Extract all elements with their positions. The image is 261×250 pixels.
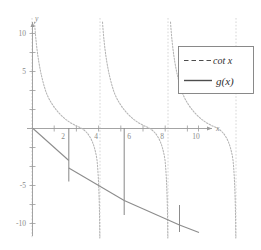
chart-figure: 2 4 6 8 10 10 5 -5 -10 x y cot x g(x)	[0, 0, 261, 250]
y-tick-labels: 10 5 -5 -10	[16, 29, 26, 228]
y-axis-label: y	[34, 14, 39, 23]
cot-branch-1	[35, 22, 100, 238]
x-tick-label-6: 6	[127, 132, 131, 141]
y-tick-label-5: 5	[22, 67, 26, 76]
g-of-x-curve	[33, 128, 199, 233]
x-tick-labels: 2 4 6 8 10	[61, 132, 200, 141]
x-tick-label-8: 8	[160, 132, 164, 141]
y-tick-label-neg10: -10	[16, 219, 26, 228]
y-axis-arrow	[31, 22, 35, 27]
g-segment-2	[69, 168, 124, 201]
legend: cot x g(x)	[179, 47, 254, 94]
chart-canvas: 2 4 6 8 10 10 5 -5 -10 x y cot x g(x)	[0, 0, 261, 250]
g-segment-4	[180, 225, 200, 233]
x-tick-label-2: 2	[61, 132, 65, 141]
x-axis-label: x	[215, 124, 220, 133]
x-tick-label-10: 10	[192, 132, 200, 141]
x-axis-arrow	[207, 126, 212, 130]
x-tick-label-4: 4	[94, 132, 98, 141]
legend-label-cot-x: cot x	[213, 55, 233, 66]
g-segment-3	[124, 201, 179, 226]
y-tick-label-neg5: -5	[20, 181, 26, 190]
legend-label-g-of-x: g(x)	[216, 75, 234, 88]
y-tick-label-10: 10	[19, 29, 27, 38]
